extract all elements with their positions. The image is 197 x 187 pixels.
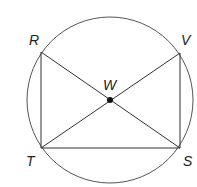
center-point-W: [107, 97, 113, 103]
label-W: W: [103, 77, 118, 93]
circle-rectangle-diagram: R V W T S: [0, 0, 197, 187]
label-V: V: [181, 32, 192, 48]
label-R: R: [29, 32, 39, 48]
label-T: T: [26, 153, 36, 169]
label-S: S: [183, 153, 193, 169]
